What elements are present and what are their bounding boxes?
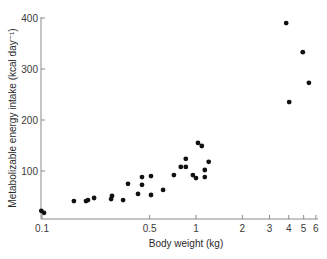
data-point [149, 193, 154, 198]
data-point [42, 210, 47, 215]
data-point [206, 159, 211, 164]
data-point [92, 196, 97, 201]
x-tick-label: 3 [267, 223, 273, 234]
data-point [110, 194, 115, 199]
data-point [199, 144, 204, 149]
data-point [196, 141, 201, 146]
data-point [172, 173, 177, 178]
data-point [183, 156, 188, 161]
x-tick-label: 5 [301, 223, 307, 234]
data-point [300, 50, 305, 55]
x-axis: 0.10.5123456 [35, 215, 319, 234]
x-tick-label: 0.5 [143, 223, 157, 234]
x-tick-label: 2 [240, 223, 246, 234]
x-tick-label: 6 [313, 223, 319, 234]
data-point [72, 199, 77, 204]
y-tick-label: 100 [21, 166, 38, 177]
data-point [307, 80, 312, 85]
data-points [39, 21, 311, 216]
data-point [140, 175, 145, 180]
data-point [183, 165, 188, 170]
data-point [178, 165, 183, 170]
x-tick-label: 1 [193, 223, 199, 234]
data-point [121, 198, 126, 203]
x-axis-title: Body weight (kg) [149, 238, 223, 249]
scatter-chart: 100200300400 0.10.5123456 Body weight (k… [0, 0, 327, 259]
data-point [287, 100, 292, 105]
y-axis: 100200300400 [21, 13, 45, 220]
data-point [202, 168, 207, 173]
data-point [149, 174, 154, 179]
data-point [161, 188, 166, 193]
data-point [136, 192, 141, 197]
data-point [86, 198, 91, 203]
data-point [194, 176, 199, 181]
y-tick-label: 400 [21, 13, 38, 24]
data-point [126, 181, 131, 186]
data-point [284, 21, 289, 26]
y-tick-label: 200 [21, 115, 38, 126]
y-tick-label: 300 [21, 64, 38, 75]
data-point [140, 182, 145, 187]
x-tick-label: 0.1 [35, 223, 49, 234]
x-tick-label: 4 [286, 223, 292, 234]
y-axis-title: Metabolizable energy intake (kcal day⁻¹) [7, 28, 18, 207]
data-point [202, 175, 207, 180]
